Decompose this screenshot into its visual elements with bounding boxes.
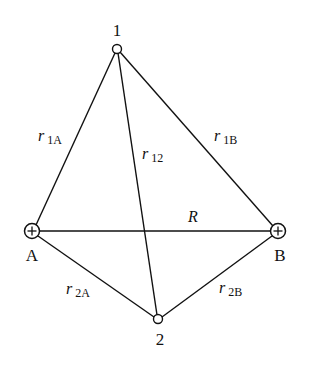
label-r2B: r2B (219, 279, 242, 299)
label-r1B: r1B (214, 127, 237, 147)
electron-2-node (154, 315, 163, 324)
label-electron-1: 1 (113, 21, 122, 40)
label-nucleus-A: A (26, 246, 39, 265)
edge-r12 (118, 53, 157, 315)
label-nucleus-B: B (274, 246, 285, 265)
label-electron-2: 2 (156, 330, 165, 349)
edge-r2A (38, 236, 154, 317)
label-r1A: r1A (38, 127, 62, 147)
nucleus-B (271, 224, 286, 239)
label-r12: r12 (142, 145, 163, 165)
electron-1-node (113, 45, 122, 54)
label-r2A: r2A (66, 280, 90, 300)
label-R: R (187, 208, 198, 225)
two-electron-diatomic-diagram: 1 2 A B r1A r12 r1B R r2A r2B (0, 0, 310, 365)
edge-r2B (162, 236, 272, 317)
edge-r1B (120, 52, 273, 226)
nucleus-A (25, 224, 40, 239)
